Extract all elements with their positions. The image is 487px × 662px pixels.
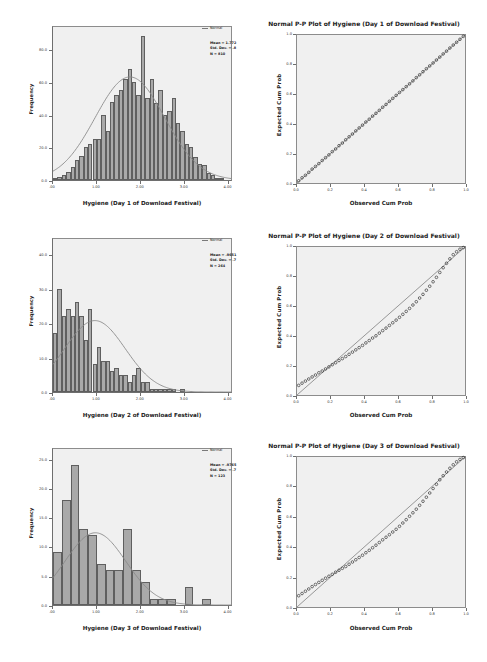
data-point [442, 266, 445, 269]
pp-scatter [297, 457, 465, 607]
y-tick-label: 0.0 [270, 182, 292, 186]
normal-curve [53, 239, 231, 392]
plot-area [296, 246, 466, 396]
y-tick-mark [293, 306, 296, 307]
legend-line [202, 28, 208, 29]
data-point [354, 558, 357, 561]
plot-area [52, 238, 232, 393]
y-axis-label: Frequency [28, 493, 34, 553]
data-point [328, 575, 331, 578]
y-tick-label: 0.0 [22, 179, 47, 183]
data-point [307, 378, 310, 381]
reference-line [297, 35, 465, 183]
data-point [412, 304, 415, 307]
x-tick-mark [364, 184, 365, 187]
data-point [314, 583, 317, 586]
x-tick-mark [432, 184, 433, 187]
x-tick-label: 0.8 [421, 400, 443, 404]
y-tick-label: 0.0 [22, 604, 47, 608]
x-tick-mark [228, 181, 229, 184]
x-tick-label: 0.6 [387, 400, 409, 404]
y-tick-label: 0.2 [270, 364, 292, 368]
y-tick-mark [49, 50, 52, 51]
x-tick-mark [96, 606, 97, 609]
data-point [422, 500, 425, 503]
x-tick-label: 1.00 [84, 185, 108, 189]
data-point [452, 463, 455, 466]
x-tick-label: 1.00 [84, 397, 108, 401]
y-tick-mark [49, 489, 52, 490]
x-tick-mark [140, 606, 141, 609]
x-tick-label: 0.8 [421, 188, 443, 192]
data-point [425, 289, 428, 292]
x-tick-mark [228, 393, 229, 396]
x-tick-label: 3.00 [172, 610, 196, 614]
y-axis-label: Expected Cum Prob [276, 70, 282, 140]
y-tick-label: 0.2 [270, 576, 292, 580]
legend-label: Normal [210, 26, 222, 30]
x-tick-label: 1.00 [84, 610, 108, 614]
data-point [318, 371, 321, 374]
y-tick-mark [293, 154, 296, 155]
x-tick-label: 4.00 [216, 397, 240, 401]
y-tick-label: 25.0 [22, 458, 47, 462]
data-point [445, 471, 448, 474]
data-point [348, 563, 351, 566]
legend-normal: Normal [210, 238, 222, 242]
data-point [398, 316, 401, 319]
stat-n: N = 123 [210, 474, 236, 479]
data-point [432, 280, 435, 283]
data-point [381, 538, 384, 541]
x-tick-label: 2.00 [128, 610, 152, 614]
x-tick-label: 1.0 [455, 400, 477, 404]
data-point [402, 313, 405, 316]
y-tick-label: 1.0 [270, 32, 292, 36]
data-point [388, 324, 391, 327]
y-tick-mark [293, 64, 296, 65]
pp-plot-panel-day3: Normal P-P Plot of Hygiene (Day 3 of Dow… [248, 436, 480, 648]
pp-plot-panel-day2: Normal P-P Plot of Hygiene (Day 2 of Dow… [248, 226, 480, 431]
x-tick-mark [398, 184, 399, 187]
y-tick-mark [293, 246, 296, 247]
y-tick-mark [293, 578, 296, 579]
data-point [432, 487, 435, 490]
x-axis-label: Hygiene (Day 2 of Download Festival) [52, 412, 232, 418]
y-tick-label: 0.2 [270, 152, 292, 156]
data-point [455, 250, 458, 253]
data-point [318, 581, 321, 584]
x-tick-label: 0.2 [319, 188, 341, 192]
x-axis-label: Hygiene (Day 3 of Download Festival) [52, 625, 232, 631]
data-point [425, 496, 428, 499]
x-tick-label: 0.2 [319, 612, 341, 616]
pp-scatter [297, 35, 465, 183]
data-point [304, 590, 307, 593]
y-tick-mark [49, 547, 52, 548]
y-tick-label: 1.0 [270, 244, 292, 248]
x-tick-mark [184, 393, 185, 396]
data-point [301, 592, 304, 595]
data-point [408, 515, 411, 518]
y-tick-mark [49, 460, 52, 461]
y-tick-mark [49, 324, 52, 325]
data-point [301, 382, 304, 385]
x-axis-label: Observed Cum Prob [296, 625, 466, 631]
y-axis-label: Frequency [28, 69, 34, 129]
y-tick-label: 20.0 [22, 322, 47, 326]
x-tick-label: 1.0 [455, 188, 477, 192]
data-point [297, 594, 300, 597]
x-tick-mark [228, 606, 229, 609]
y-tick-label: 40.0 [22, 253, 47, 257]
data-point [459, 248, 462, 251]
x-tick-mark [296, 608, 297, 611]
x-tick-mark [398, 608, 399, 611]
x-tick-mark [466, 396, 467, 399]
data-point [405, 310, 408, 313]
x-tick-label: 0.2 [319, 400, 341, 404]
data-point [459, 458, 462, 461]
pp-plot-title: Normal P-P Plot of Hygiene (Day 1 of Dow… [248, 20, 480, 27]
y-tick-mark [293, 456, 296, 457]
y-tick-label: 0.6 [270, 515, 292, 519]
data-point [422, 293, 425, 296]
data-point [344, 355, 347, 358]
plot-area [52, 448, 232, 606]
